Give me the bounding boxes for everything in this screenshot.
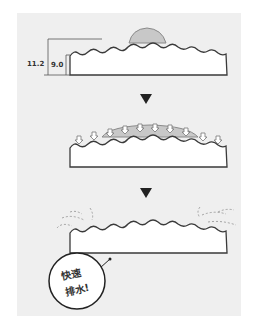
step1-board: 11.2 9.0 [27, 28, 227, 75]
step3-board: 快速 排水! [49, 207, 236, 309]
drainage-diagram: 11.2 9.0 [0, 0, 254, 329]
dim-inner-label: 9.0 [51, 61, 64, 69]
dim-outer-label: 11.2 [27, 60, 44, 68]
splash-right [198, 207, 236, 225]
step2-board [70, 124, 227, 167]
callout-bubble [49, 253, 105, 309]
water-droplet-icon [129, 28, 166, 43]
splash-left [57, 208, 93, 228]
down-arrow-icon [140, 188, 152, 198]
down-arrow-icon [140, 94, 152, 104]
